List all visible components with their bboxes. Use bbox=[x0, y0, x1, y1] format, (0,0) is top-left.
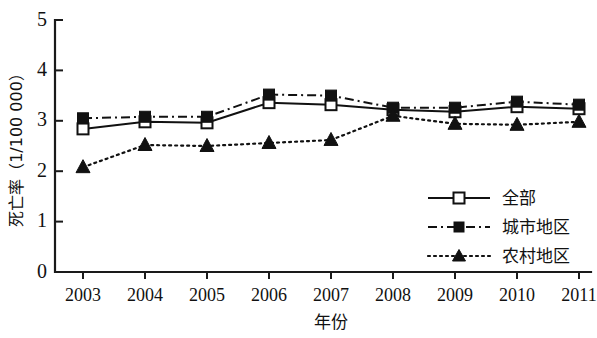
x-axis-tick-label: 2011 bbox=[561, 285, 596, 305]
data-point-marker bbox=[512, 96, 523, 107]
chart-legend: 全部城市地区农村地区 bbox=[428, 188, 570, 266]
data-point-marker bbox=[138, 137, 152, 150]
x-axis-tick-label: 2009 bbox=[437, 285, 473, 305]
x-axis-tick-label: 2005 bbox=[189, 285, 225, 305]
data-point-marker bbox=[140, 111, 151, 122]
data-point-marker bbox=[78, 123, 89, 134]
y-axis-tick-label: 1 bbox=[37, 209, 47, 231]
x-axis-tick-label: 2008 bbox=[375, 285, 411, 305]
y-axis-tick-label: 5 bbox=[37, 8, 47, 30]
legend-marker-sample bbox=[454, 222, 464, 232]
x-axis-tick-label: 2004 bbox=[127, 285, 163, 305]
data-point-marker bbox=[202, 111, 213, 122]
data-point-marker bbox=[450, 102, 461, 113]
x-axis-tick-label: 2010 bbox=[499, 285, 535, 305]
y-axis-tick-label: 2 bbox=[37, 159, 47, 181]
data-point-marker bbox=[572, 114, 586, 127]
data-point-marker bbox=[78, 113, 89, 124]
data-point-marker bbox=[326, 90, 337, 101]
data-point-marker bbox=[76, 160, 90, 173]
x-axis-title: 年份 bbox=[314, 312, 348, 332]
legend-label: 农村地区 bbox=[502, 246, 570, 266]
legend-label: 全部 bbox=[502, 188, 536, 208]
legend-label: 城市地区 bbox=[502, 217, 570, 237]
data-point-marker bbox=[264, 89, 275, 100]
x-axis-tick-label: 2003 bbox=[65, 285, 101, 305]
y-axis-title: 死亡率（1/100 000） bbox=[7, 65, 26, 227]
data-point-marker bbox=[262, 135, 276, 148]
legend-marker-sample bbox=[454, 193, 465, 204]
x-axis-tick-label: 2006 bbox=[251, 285, 287, 305]
x-axis-tick-label: 2007 bbox=[313, 285, 349, 305]
y-axis-tick-label: 3 bbox=[37, 108, 47, 130]
data-point-marker bbox=[324, 132, 338, 145]
y-axis-tick-label: 0 bbox=[37, 260, 47, 282]
data-point-marker bbox=[574, 99, 585, 110]
y-axis-tick-label: 4 bbox=[37, 58, 47, 80]
chart-canvas: 0123452003200420052006200720082009201020… bbox=[0, 0, 597, 338]
mortality-rate-line-chart: 0123452003200420052006200720082009201020… bbox=[0, 0, 597, 338]
